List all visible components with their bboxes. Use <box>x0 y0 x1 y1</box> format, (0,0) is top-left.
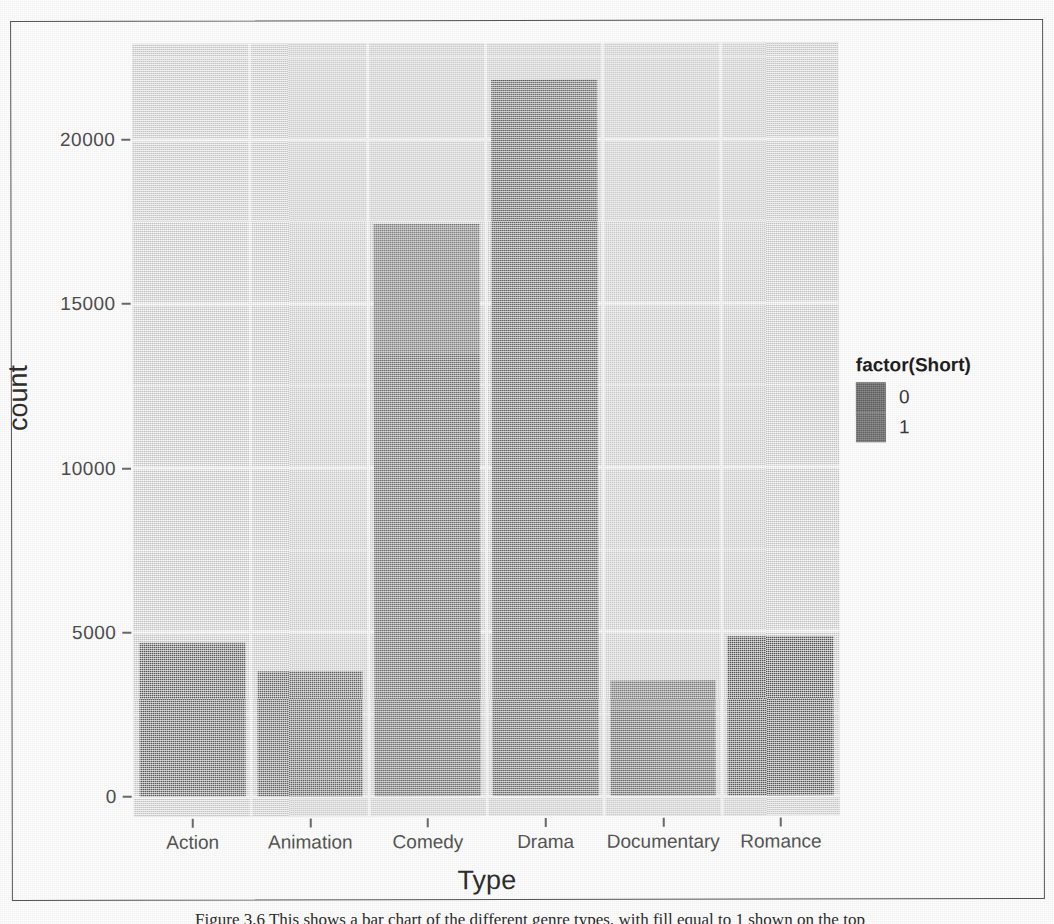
y-tick-mark <box>122 303 131 305</box>
legend-title: factor(Short) <box>856 354 1031 376</box>
gridline-major-x <box>484 43 489 816</box>
segment-divider <box>610 681 716 682</box>
bar-segment-romance-short-1[interactable] <box>728 636 834 637</box>
y-tick-label: 5000 <box>72 622 116 644</box>
x-tick-label: Romance <box>740 830 821 852</box>
segment-divider <box>728 636 834 637</box>
y-tick-mark <box>122 632 131 634</box>
segment-divider <box>491 80 597 81</box>
y-tick-label: 0 <box>106 786 117 808</box>
x-tick-label: Documentary <box>607 831 720 853</box>
bar-segment-animation-short-0[interactable] <box>257 778 363 797</box>
bar-romance[interactable] <box>728 636 834 796</box>
stacked-bar-chart: 05000100001500020000 count ActionAnimati… <box>10 19 1045 901</box>
y-tick-label: 20000 <box>60 129 115 151</box>
y-tick-mark <box>123 796 132 798</box>
x-tick-label: Action <box>166 832 219 854</box>
bar-segment-comedy-short-0[interactable] <box>374 353 481 797</box>
x-axis-title: Type <box>134 864 840 896</box>
gridline-major-x <box>366 43 371 816</box>
bar-segment-romance-short-0[interactable] <box>728 637 834 796</box>
y-tick-mark <box>122 467 131 469</box>
bar-segment-documentary-short-1[interactable] <box>610 681 716 709</box>
x-tick-mark <box>427 818 429 827</box>
x-tick-label: Comedy <box>393 831 464 853</box>
bar-segment-animation-short-1[interactable] <box>257 672 363 779</box>
legend-label: 0 <box>899 386 910 408</box>
gridline-major-x <box>248 44 253 817</box>
x-tick-mark <box>780 817 782 826</box>
gridline-major-x <box>601 43 606 816</box>
bar-drama[interactable] <box>491 80 598 796</box>
x-tick-label: Drama <box>517 831 574 853</box>
bar-segment-action-short-1[interactable] <box>139 642 245 644</box>
bar-segment-action-short-0[interactable] <box>139 644 245 797</box>
segment-divider <box>139 642 245 643</box>
gridline-major-x <box>719 43 724 816</box>
bar-segment-drama-short-1[interactable] <box>491 80 597 115</box>
segment-divider <box>374 225 480 226</box>
bar-documentary[interactable] <box>610 681 716 796</box>
legend-swatch-0 <box>856 382 886 412</box>
y-axis-ticks: 05000100001500020000 <box>10 19 1043 21</box>
legend-items: 01 <box>856 382 1031 442</box>
bar-segment-drama-short-0[interactable] <box>491 114 598 796</box>
x-tick-mark <box>545 818 547 827</box>
x-axis-ticks: ActionAnimationComedyDramaDocumentaryRom… <box>10 19 1043 21</box>
bar-action[interactable] <box>139 642 245 797</box>
bar-segment-documentary-short-0[interactable] <box>610 708 716 796</box>
segment-divider <box>257 672 363 673</box>
y-tick-mark <box>121 139 130 141</box>
bar-animation[interactable] <box>257 672 363 797</box>
legend-item-0[interactable]: 0 <box>856 382 1031 412</box>
bar-segment-comedy-short-1[interactable] <box>374 225 480 353</box>
x-tick-mark <box>309 818 311 827</box>
x-tick-mark <box>192 819 194 828</box>
x-tick-mark <box>662 818 664 827</box>
legend: factor(Short) 01 <box>856 354 1031 442</box>
legend-swatch-1 <box>856 412 886 442</box>
plot-panel <box>132 42 840 816</box>
vertical-gridlines <box>132 42 838 43</box>
y-axis-title: count <box>3 365 34 431</box>
y-tick-label: 10000 <box>61 457 116 479</box>
bar-comedy[interactable] <box>374 225 481 797</box>
scanned-page: 05000100001500020000 count ActionAnimati… <box>0 0 1054 924</box>
legend-item-1[interactable]: 1 <box>856 412 1031 442</box>
figure-caption: Figure 3.6 This shows a bar chart of the… <box>95 908 965 924</box>
legend-label: 1 <box>899 416 910 438</box>
y-tick-label: 15000 <box>60 293 115 315</box>
x-tick-label: Animation <box>268 831 353 853</box>
